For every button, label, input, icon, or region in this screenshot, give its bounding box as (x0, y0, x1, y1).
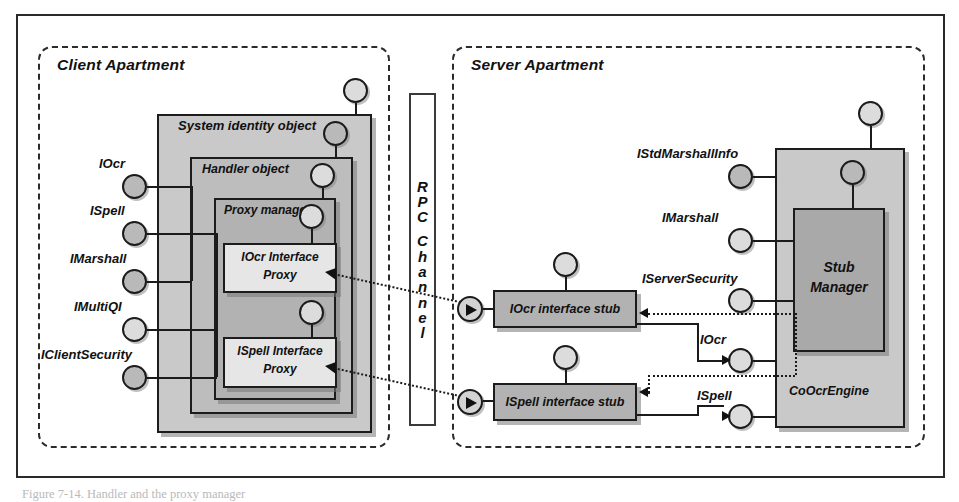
connector-system-identity-top (355, 103, 357, 115)
ispell-interface-proxy-label-line2: Proxy (225, 363, 335, 376)
lollipop-coocrengine-top (858, 101, 883, 126)
connector-ispell-stub-entry (483, 400, 494, 402)
stubmanager-link-ispell-drop (648, 375, 650, 393)
connector-server-imarshall (753, 240, 795, 242)
ispell-stub-entry-arrow-circle (457, 389, 483, 415)
stubmanager-link-ispell-arrowhead (639, 387, 648, 397)
lollipop-ispell-stub-top (553, 345, 578, 370)
rail-system-identity (191, 186, 193, 281)
stubmanager-link-iocr-arrowhead (639, 308, 648, 318)
connector-iocr-stub-to-engine-v (697, 323, 699, 361)
connector-server-iserversecurity (753, 300, 795, 302)
stubmanager-link-ispell-h (648, 375, 795, 377)
rpc-letter: C (417, 209, 428, 224)
ispell-interface-proxy-box: ISpell Interface Proxy (223, 337, 337, 388)
connector-ispell-stub-top (565, 370, 567, 384)
lollipop-stub-manager-top (840, 160, 865, 185)
lollipop-client-ispell (122, 221, 147, 246)
lollipop-iocr-stub-top (553, 252, 578, 277)
rpc-letter: R (417, 179, 428, 194)
server-iface-label-iocr: IOcr (700, 332, 726, 347)
lollipop-proxy-manager (299, 204, 324, 229)
iocr-interface-stub-box: IOcr interface stub (493, 290, 637, 328)
connector-client-iclientsecurity (147, 377, 217, 379)
stubmanager-link-ispell-v (795, 313, 797, 375)
connector-client-imarshall (147, 281, 192, 283)
connector-client-ispell (147, 233, 217, 235)
lollipop-client-imarshall (122, 269, 147, 294)
figure-caption: Figure 7-14. Handler and the proxy manag… (22, 487, 622, 501)
iocr-interface-proxy-label-line1: IOcr Interface (225, 251, 335, 264)
rpc-letter: h (418, 249, 427, 264)
stub-manager-label-line1: Stub (795, 260, 883, 276)
rpc-letter: P (417, 194, 427, 209)
ispell-interface-stub-label: ISpell interface stub (495, 395, 635, 409)
ispell-interface-proxy-label-line1: ISpell Interface (225, 345, 335, 358)
lollipop-server-iocr (728, 348, 753, 373)
connector-iocr-stub-entry (483, 308, 494, 310)
lollipop-handler-object (310, 163, 335, 188)
lollipop-system-identity-top (343, 78, 368, 103)
rail-handler-object (216, 233, 218, 377)
client-iface-label-ispell: ISpell (90, 203, 125, 218)
rpc-letter: l (420, 325, 424, 340)
connector-ispell-stub-to-engine-h1 (637, 414, 698, 416)
connector-client-iocr (147, 186, 192, 188)
figure-canvas: Client Apartment System identity object … (0, 0, 959, 502)
iocr-stub-entry-arrow-circle (457, 296, 483, 322)
connector-server-iocr (753, 360, 777, 362)
lollipop-server-iserversecurity (728, 288, 753, 313)
connector-ispell-stub-to-engine-h2 (697, 405, 724, 407)
stubmanager-link-ispell-tail (648, 392, 650, 394)
lollipop-server-imarshall (728, 228, 753, 253)
server-iface-label-imarshall: IMarshall (662, 210, 718, 225)
rpc-channel-box: R P C C h a n n e l (409, 93, 436, 426)
server-ispell-arrowhead (722, 411, 731, 421)
connector-server-istdmarshallinfo (753, 176, 777, 178)
lollipop-client-imultiqi (122, 317, 147, 342)
connector-handler-object (322, 188, 324, 199)
connector-client-imultiqi (147, 329, 217, 331)
client-iface-label-iclientsecurity: IClientSecurity (41, 347, 132, 362)
server-iface-label-iserversecurity: IServerSecurity (642, 271, 737, 286)
connector-server-ispell (753, 416, 777, 418)
iocr-interface-stub-label: IOcr interface stub (495, 302, 635, 316)
connector-proxy-manager (311, 229, 313, 244)
client-iface-label-imultiqi: IMultiQI (74, 299, 122, 314)
server-apartment-title: Server Apartment (471, 56, 604, 74)
stub-manager-label-line2: Manager (795, 280, 883, 296)
lollipop-ispell-proxy (299, 300, 324, 325)
connector-iocr-stub-top (565, 277, 567, 291)
handler-object-label: Handler object (202, 163, 289, 176)
ispell-interface-stub-box: ISpell interface stub (493, 383, 637, 421)
client-apartment-title: Client Apartment (57, 56, 185, 74)
rpc-letter: a (418, 264, 426, 279)
rpc-letter: e (418, 310, 426, 325)
connector-coocrengine-top (870, 126, 872, 149)
lollipop-client-iocr (122, 174, 147, 199)
proxy-manager-label: Proxy manager (224, 204, 311, 217)
server-iface-label-istdmarshallinfo: IStdMarshallInfo (637, 146, 738, 161)
client-iface-label-imarshall: IMarshall (70, 251, 126, 266)
iocr-interface-proxy-label-line2: Proxy (225, 269, 335, 282)
connector-stub-manager-top (852, 185, 854, 209)
rpc-letter: n (418, 295, 427, 310)
coocrengine-label: CoOcrEngine (789, 385, 869, 398)
ispell-proxy-marshal-arrowhead (325, 362, 336, 374)
connector-ispell-proxy (311, 325, 313, 338)
iocr-interface-proxy-box: IOcr Interface Proxy (223, 243, 337, 293)
client-iface-label-iocr: IOcr (99, 156, 125, 171)
lollipop-client-iclientsecurity (122, 365, 147, 390)
stub-manager-box: Stub Manager (793, 208, 885, 352)
server-iface-label-ispell: ISpell (697, 388, 732, 403)
lollipop-system-identity (323, 121, 348, 146)
stubmanager-link-iocr-h (648, 313, 795, 315)
iocr-proxy-marshal-arrowhead (325, 268, 336, 280)
rpc-letter: C (417, 233, 428, 248)
connector-system-identity (335, 146, 337, 158)
lollipop-server-istdmarshallinfo (728, 164, 753, 189)
connector-iocr-stub-to-engine-h2 (697, 360, 724, 362)
lollipop-server-ispell (728, 404, 753, 429)
connector-iocr-stub-to-engine-h1 (637, 323, 698, 325)
system-identity-object-label: System identity object (178, 119, 316, 133)
